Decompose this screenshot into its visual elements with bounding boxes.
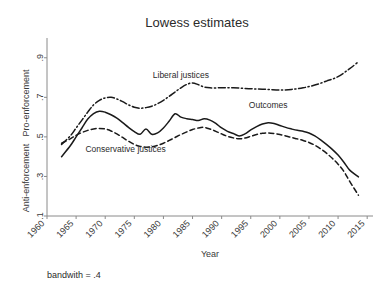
y-axis-ticks: .1.3.5.7.9 bbox=[35, 54, 47, 220]
x-tick-label: 1980 bbox=[142, 218, 163, 239]
y-axis-label-top: Pro-enforcement bbox=[21, 69, 31, 137]
series-label-outcomes: Outcomes bbox=[249, 100, 288, 110]
y-tick-label: .5 bbox=[35, 133, 45, 141]
x-tick-label: 2010 bbox=[316, 218, 337, 239]
series-label-liberal-justices: Liberal justices bbox=[153, 70, 209, 80]
chart-canvas: Lowess estimates Pro-enforcement Anti-en… bbox=[0, 0, 381, 290]
x-tick-label: 1990 bbox=[200, 218, 221, 239]
series-line-conservative-justices bbox=[62, 127, 359, 195]
x-tick-label: 1960 bbox=[25, 218, 46, 239]
chart-title: Lowess estimates bbox=[145, 15, 249, 30]
bandwidth-note: bandwith = .4 bbox=[47, 270, 101, 280]
x-tick-label: 2015 bbox=[345, 218, 366, 239]
x-tick-label: 2000 bbox=[258, 218, 279, 239]
y-axis-label-bottom: Anti-enforcement bbox=[21, 143, 31, 212]
y-tick-label: .7 bbox=[35, 94, 45, 102]
x-tick-label: 1985 bbox=[171, 218, 192, 239]
x-tick-label: 2005 bbox=[287, 218, 308, 239]
series-line-liberal-justices bbox=[62, 62, 359, 145]
y-tick-label: .1 bbox=[35, 212, 45, 220]
x-tick-label: 1965 bbox=[54, 218, 75, 239]
series-label-conservative-justices: Conservative justices bbox=[85, 144, 165, 154]
x-axis-label: Year bbox=[201, 249, 219, 259]
series-lines bbox=[62, 62, 359, 196]
x-tick-label: 1995 bbox=[229, 218, 250, 239]
y-tick-label: .3 bbox=[35, 173, 45, 181]
series-labels: Liberal justicesOutcomesConservative jus… bbox=[85, 70, 287, 154]
y-tick-label: .9 bbox=[35, 54, 45, 62]
x-tick-label: 1975 bbox=[113, 218, 134, 239]
x-tick-label: 1970 bbox=[83, 218, 104, 239]
x-axis-ticks: 1960196519701975198019851990199520002005… bbox=[25, 216, 367, 240]
lowess-chart: Lowess estimates Pro-enforcement Anti-en… bbox=[0, 0, 381, 290]
